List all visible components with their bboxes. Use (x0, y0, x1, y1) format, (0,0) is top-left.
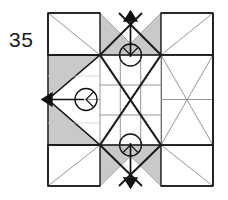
right-middle-panel-group (161, 55, 213, 145)
origami-diagram-figure: 35 (0, 0, 228, 200)
arrow-left-circle-tick-up (86, 92, 94, 100)
arrow-left-circle-tick-down (86, 100, 94, 108)
diagram-canvas (0, 0, 228, 200)
figure-step-number: 35 (9, 29, 33, 50)
